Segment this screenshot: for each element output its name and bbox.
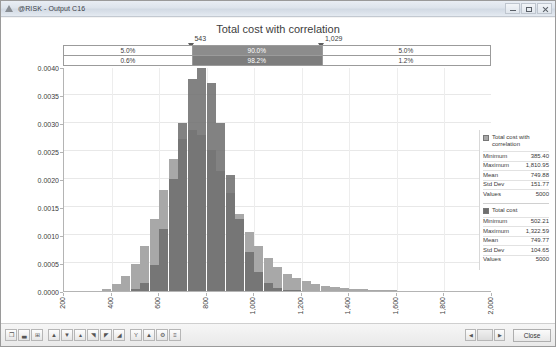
filter-icon[interactable]: Y: [130, 329, 142, 341]
statistic-row: Minimum502.21: [483, 217, 549, 227]
gridline-horizontal: [64, 150, 491, 151]
statistic-label: Std Dev: [483, 180, 518, 190]
gridline-vertical: [397, 68, 398, 292]
percentile-segment[interactable]: 1.2%: [322, 56, 490, 65]
histogram-bar: [254, 272, 263, 291]
statistic-row: Minimum385.40: [483, 152, 549, 162]
gridline-horizontal: [64, 178, 491, 179]
legend-statistics-table: Minimum385.40Maximum1,810.95Mean749.88St…: [483, 151, 549, 199]
gridline-horizontal: [64, 234, 491, 235]
y-axis-tick-label: 0.0040: [38, 65, 59, 72]
area-chart-icon[interactable]: ◥: [87, 329, 99, 341]
chart-title: Total cost with correlation: [1, 23, 555, 35]
histogram-plot: [63, 68, 491, 292]
delimiter-value-left[interactable]: 543: [194, 35, 206, 42]
histogram-bar: [178, 123, 187, 291]
y-axis-tick-label: 0.0005: [38, 261, 59, 268]
histogram-bar: [368, 290, 377, 291]
chart-index-box[interactable]: [477, 329, 493, 341]
cumulative-descending-icon[interactable]: ▼: [61, 329, 73, 341]
risk-output-window: @RISK - Output C16 Total cost with corre…: [0, 0, 556, 347]
segment-divider: [322, 46, 323, 55]
y-axis-tick: [60, 264, 63, 265]
y-axis-tick: [60, 208, 63, 209]
x-axis-tick-label: 2,000: [487, 297, 494, 315]
close-button[interactable]: Close: [513, 329, 551, 342]
gridline-horizontal: [64, 122, 491, 123]
gridline-vertical: [112, 68, 113, 292]
y-axis-tick-label: 0.0025: [38, 149, 59, 156]
statistic-label: Std Dev: [483, 246, 518, 256]
histogram-bar: [321, 286, 330, 291]
minimize-button[interactable]: [505, 3, 520, 14]
statistic-row: Values5000: [483, 255, 549, 264]
histogram-icon[interactable]: ▲: [48, 329, 60, 341]
statistic-value: 104.65: [518, 246, 549, 256]
histogram-bar: [235, 219, 244, 291]
statistic-row: Maximum1,810.95: [483, 161, 549, 171]
statistic-value: 1,322.59: [518, 227, 549, 237]
statistics-legend: Total cost with correlationMinimum385.40…: [479, 130, 551, 270]
window-controls: [504, 3, 552, 14]
delimiter-value-right[interactable]: 1,029: [325, 35, 343, 42]
percentile-segment[interactable]: 98.2%: [192, 56, 322, 65]
cumulative-ascending-icon[interactable]: ▴: [74, 329, 86, 341]
x-axis-tick-label: 1,600: [392, 297, 399, 315]
overlay-icon[interactable]: ▲: [143, 329, 155, 341]
gridline-vertical: [444, 68, 445, 292]
percentile-segment[interactable]: 5.0%: [322, 46, 490, 55]
histogram-bar: [131, 289, 140, 291]
histogram-bar: [292, 278, 301, 291]
x-axis-tick-label: 800: [202, 297, 209, 309]
y-axis-tick-label: 0.0030: [38, 121, 59, 128]
window-title: @RISK - Output C16: [18, 5, 85, 12]
gridline-horizontal: [64, 262, 491, 263]
gridline-horizontal: [64, 94, 491, 95]
settings-icon[interactable]: ⚙: [156, 329, 168, 341]
prev-chart-button[interactable]: ◀: [465, 329, 476, 341]
histogram-bar: [330, 287, 339, 291]
statistic-value: 749.77: [518, 236, 549, 246]
list-icon[interactable]: ≡: [169, 329, 181, 341]
histogram-bar: [283, 290, 292, 291]
window-titlebar[interactable]: @RISK - Output C16: [1, 1, 555, 17]
gridline-vertical: [302, 68, 303, 292]
y-axis-tick-label: 0.0035: [38, 93, 59, 100]
percentile-segment[interactable]: 0.6%: [64, 56, 192, 65]
statistic-value: 385.40: [518, 152, 549, 162]
y-axis-tick: [60, 180, 63, 181]
statistic-label: Mean: [483, 171, 518, 181]
histogram-bar: [216, 123, 225, 291]
y-axis-tick-label: 0.0000: [38, 289, 59, 296]
statistic-row: Maximum1,322.59: [483, 227, 549, 237]
histogram-bar: [188, 79, 197, 291]
scatter-icon[interactable]: ◢: [113, 329, 125, 341]
bottom-toolbar: ❐▃⊞▲▼▴◥◤◢Y▲⚙≡ ◀ ▶ Close: [1, 323, 555, 346]
x-axis-tick: [63, 293, 64, 296]
x-axis-tick: [158, 293, 159, 296]
legend-divider: [483, 203, 549, 204]
statistic-label: Mean: [483, 236, 518, 246]
maximize-button[interactable]: [521, 3, 536, 14]
percentile-segment[interactable]: 5.0%: [64, 46, 192, 55]
percentile-segment[interactable]: 90.0%: [192, 46, 322, 55]
legend-entry-header: Total cost: [483, 207, 549, 214]
chart-bar-icon[interactable]: ▃: [18, 329, 30, 341]
histogram-bar: [159, 229, 168, 291]
copy-icon[interactable]: ❐: [5, 329, 17, 341]
close-window-button[interactable]: [537, 3, 552, 14]
secondary-probability-row[interactable]: 0.6%98.2%1.2%: [63, 55, 491, 66]
y-axis-tick: [60, 152, 63, 153]
histogram-bar: [131, 264, 140, 291]
histogram-bar: [378, 290, 387, 291]
histogram-bar: [197, 68, 206, 291]
x-axis-tick-label: 1,800: [439, 297, 446, 315]
summary-chart-icon[interactable]: ◤: [100, 329, 112, 341]
statistic-label: Maximum: [483, 227, 518, 237]
histogram-bar: [169, 179, 178, 291]
gridline-vertical: [349, 68, 350, 292]
legend-series-name: Total cost: [492, 207, 517, 214]
grid-icon[interactable]: ⊞: [31, 329, 43, 341]
segment-divider: [192, 56, 193, 65]
next-chart-button[interactable]: ▶: [494, 329, 505, 341]
